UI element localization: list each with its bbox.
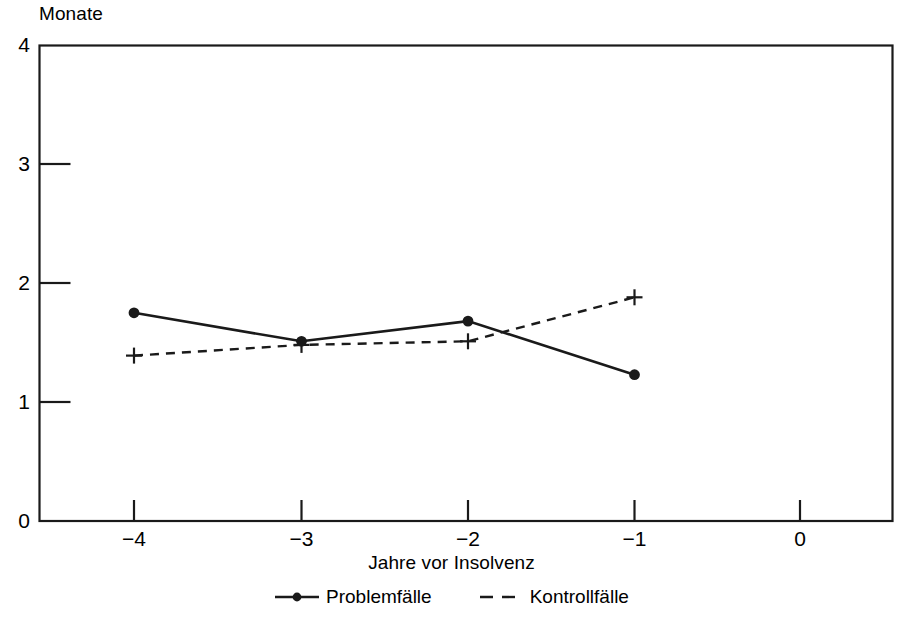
plot-frame [40,46,893,522]
series-problemfaelle [129,307,640,380]
x-tick-label-minus4: −4 [112,528,156,550]
series-problemfaelle-line [134,313,635,375]
legend-label-kontrollfaelle: Kontrollfälle [530,585,629,609]
legend-label-problemfaelle: Problemfälle [326,585,432,609]
y-tick-label-3: 3 [2,153,30,175]
chart-legend: Problemfälle Kontrollfälle [0,585,903,609]
legend-dashed-line-icon [478,590,524,604]
x-tick-label-zero: 0 [778,528,822,550]
series-problemfaelle-markers [129,307,640,380]
y-axis-ticks [40,164,71,402]
chart-figure: Monate [0,0,903,622]
x-tick-label-minus1: −1 [613,528,657,550]
legend-item-problemfaelle: Problemfälle [274,585,432,609]
y-tick-label-4: 4 [2,34,30,56]
x-axis-title: Jahre vor Insolvenz [0,551,903,575]
y-tick-label-1: 1 [2,391,30,413]
x-tick-label-minus2: −2 [446,528,490,550]
y-tick-label-2: 2 [2,272,30,294]
legend-solid-line-marker-icon [274,590,320,604]
legend-item-kontrollfaelle: Kontrollfälle [478,585,629,609]
y-tick-label-0: 0 [2,510,30,532]
x-axis-ticks [134,500,800,521]
x-tick-label-minus3: −3 [280,528,324,550]
